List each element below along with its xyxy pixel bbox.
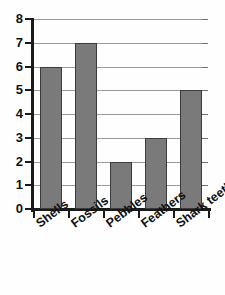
y-axis-tick-label: 2 [9, 155, 23, 168]
y-axis-tick-mark [25, 137, 32, 139]
y-axis-tick-label: 4 [9, 107, 23, 120]
y-axis-tick-label: 3 [9, 131, 23, 144]
y-axis-tick-mark [25, 42, 32, 44]
y-axis-tick-labels: 876543210 [0, 0, 23, 295]
y-axis-tick-label: 5 [9, 83, 23, 96]
bar-chart: 876543210 ShellsFossilsPebblesFeathersSh… [0, 0, 225, 295]
y-axis-tick-mark [25, 89, 32, 91]
y-axis-tick-mark [25, 18, 32, 20]
y-axis-tick-label: 0 [9, 202, 23, 215]
y-axis-tick-mark [25, 113, 32, 115]
y-axis-tick-label: 6 [9, 60, 23, 73]
x-axis-tick-mark [208, 211, 210, 218]
bars-group [33, 19, 208, 209]
bar [75, 43, 97, 209]
y-axis-tick-label: 7 [9, 36, 23, 49]
y-axis-tick-label: 8 [9, 12, 23, 25]
y-axis-tick-mark [25, 208, 32, 210]
bar [40, 67, 62, 210]
y-axis-tick-mark [25, 184, 32, 186]
y-axis-tick-label: 1 [9, 178, 23, 191]
y-axis-tick-mark [25, 161, 32, 163]
y-axis-tick-mark [25, 66, 32, 68]
